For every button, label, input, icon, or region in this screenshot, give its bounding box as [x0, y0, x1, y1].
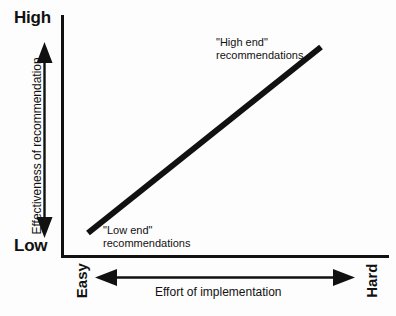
x-axis-easy-label: Easy — [73, 253, 90, 309]
chart-canvas — [0, 0, 396, 316]
y-axis-high-label: High — [14, 8, 51, 28]
annotation-high-end-line2: recommendations — [216, 49, 303, 62]
trend-line — [88, 47, 321, 233]
chart-figure: High Low Effectiveness of recommendation… — [0, 0, 396, 316]
x-axis-arrow-head-right — [333, 269, 355, 286]
annotation-low-end: "Low end" recommendations — [103, 224, 190, 249]
x-axis-arrow-head-left — [95, 269, 117, 286]
annotation-low-end-line1: "Low end" — [103, 224, 190, 237]
x-axis-hard-label: Hard — [363, 253, 380, 309]
annotation-high-end: "High end" recommendations — [216, 36, 303, 61]
x-axis-title: Effort of implementation — [155, 286, 282, 300]
annotation-low-end-line2: recommendations — [103, 237, 190, 250]
y-axis-title: Effectiveness of recommendation — [31, 46, 45, 246]
annotation-high-end-line1: "High end" — [216, 36, 303, 49]
